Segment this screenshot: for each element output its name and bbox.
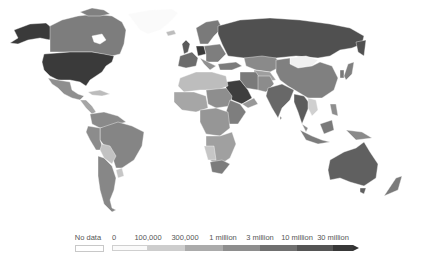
legend-bin-1m-3m	[223, 245, 260, 251]
region-russia-east[interactable]	[356, 40, 366, 56]
region-france-spain[interactable]	[178, 52, 198, 68]
region-south-africa[interactable]	[210, 160, 230, 174]
region-vietnam-laos[interactable]	[308, 98, 318, 116]
region-alaska[interactable]	[10, 23, 52, 44]
legend-arrow-icon	[353, 245, 359, 251]
legend-label-3m: 3 million	[246, 233, 274, 242]
legend-bin-30m-plus	[333, 245, 353, 251]
region-japan[interactable]	[344, 62, 354, 80]
world-map	[0, 0, 424, 230]
legend-label-30m: 30 million	[317, 233, 349, 242]
region-central-america[interactable]	[80, 100, 96, 114]
legend-bin-300k-1m	[185, 245, 223, 251]
region-iceland[interactable]	[166, 30, 176, 36]
region-canada[interactable]	[50, 14, 126, 56]
region-sahel[interactable]	[206, 88, 232, 108]
legend-color-bar	[112, 245, 359, 251]
region-paraguay-uruguay[interactable]	[116, 168, 124, 178]
legend-no-data-label: No data	[75, 233, 101, 242]
legend-label-0: 0	[112, 233, 116, 242]
region-korea[interactable]	[340, 70, 344, 78]
region-central-africa[interactable]	[200, 108, 230, 136]
legend-label-1m: 1 million	[209, 233, 237, 242]
region-turkey[interactable]	[218, 62, 242, 70]
legend-bin-100k-300k	[148, 245, 185, 251]
legend-no-data-swatch	[75, 245, 104, 252]
region-russia[interactable]	[218, 18, 364, 60]
region-borneo[interactable]	[320, 120, 334, 134]
region-myanmar-thailand[interactable]	[294, 94, 310, 124]
region-uk[interactable]	[182, 40, 190, 54]
region-central-europe[interactable]	[204, 44, 226, 62]
region-madagascar[interactable]	[244, 140, 250, 160]
legend-label-300k: 300,000	[171, 233, 198, 242]
region-namibia-botswana[interactable]	[204, 146, 216, 160]
region-new-zealand[interactable]	[384, 176, 402, 196]
region-philippines[interactable]	[330, 104, 338, 116]
region-greenland[interactable]	[128, 9, 178, 34]
legend-label-100k: 100,000	[134, 233, 161, 242]
region-australia[interactable]	[328, 142, 378, 186]
legend-bin-0-100k	[112, 245, 148, 251]
region-tasmania[interactable]	[360, 188, 366, 194]
region-new-guinea[interactable]	[346, 130, 372, 140]
region-argentina-chile[interactable]	[98, 156, 116, 212]
region-arctic-islands[interactable]	[80, 8, 110, 16]
region-sri-lanka[interactable]	[280, 116, 282, 120]
region-caribbean[interactable]	[88, 90, 110, 96]
legend-bin-3m-10m	[260, 245, 297, 251]
legend-bin-10m-30m	[297, 245, 333, 251]
region-west-africa[interactable]	[174, 92, 208, 112]
region-malaysia[interactable]	[302, 124, 308, 132]
region-india[interactable]	[266, 84, 294, 118]
legend-label-10m: 10 million	[281, 233, 313, 242]
